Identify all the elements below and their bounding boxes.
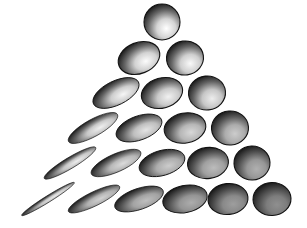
ellipse-r6c6: [252, 182, 291, 216]
figure-root: Triangular array of shaded ellipsoids: [0, 0, 307, 228]
ellipse-r5c5: [233, 145, 270, 180]
ellipse-array-canvas: [0, 0, 307, 228]
ellipse-r1c1: [144, 4, 180, 40]
